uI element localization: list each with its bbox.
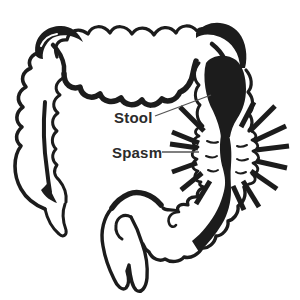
ascending-colon-outer-wall bbox=[15, 52, 45, 209]
burst-line bbox=[254, 126, 286, 141]
descending-colon-outer-wall bbox=[246, 70, 253, 131]
burst-line bbox=[180, 107, 204, 131]
burst-line bbox=[256, 161, 287, 168]
colon-illustration: Stool Spasm bbox=[0, 0, 300, 300]
hepatic-flexure bbox=[35, 26, 83, 74]
rectum-outline bbox=[102, 208, 147, 291]
appendix-outline bbox=[45, 204, 66, 236]
descending-colon-inner-wall bbox=[195, 63, 203, 125]
stool-label: Stool bbox=[114, 110, 153, 125]
ascending-colon-inner-wall bbox=[52, 78, 66, 202]
cecum-shadow-wedge bbox=[41, 183, 57, 203]
transverse-colon-bottom-edge bbox=[64, 61, 196, 105]
burst-line bbox=[256, 146, 289, 150]
rectum bbox=[102, 192, 161, 291]
appendix bbox=[45, 204, 66, 236]
sigmoid-inner-curl bbox=[169, 212, 179, 227]
spasm-label: Spasm bbox=[112, 145, 162, 160]
cecum-medial-fold bbox=[44, 102, 50, 192]
rectum-top-accent bbox=[112, 192, 161, 208]
transverse-colon-top-edge bbox=[56, 26, 208, 57]
hepatic-flexure-inner-fold bbox=[53, 45, 64, 74]
rectum-inner-hook bbox=[116, 215, 131, 239]
ascending-colon-cecum bbox=[15, 52, 66, 209]
burst-line bbox=[250, 106, 275, 131]
